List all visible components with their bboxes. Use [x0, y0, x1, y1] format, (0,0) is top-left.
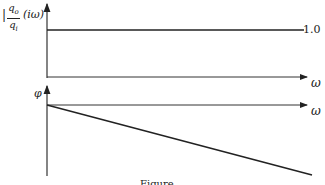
phase-y-label: φ: [34, 87, 42, 100]
abs-bar: |: [2, 8, 6, 22]
magnitude-y-label: | qo qi: [7, 2, 20, 35]
figure-caption: Figure: [140, 178, 174, 185]
level-label: 1.0: [303, 23, 321, 36]
magnitude-argument: (iω): [23, 8, 44, 21]
magnitude-x-label: ω: [311, 76, 321, 90]
denominator-sub: i: [16, 25, 18, 33]
phase-curve: [47, 105, 312, 175]
numerator-sub: o: [15, 8, 19, 16]
phase-x-label: ω: [311, 104, 321, 118]
frequency-response-diagram: [0, 0, 325, 185]
